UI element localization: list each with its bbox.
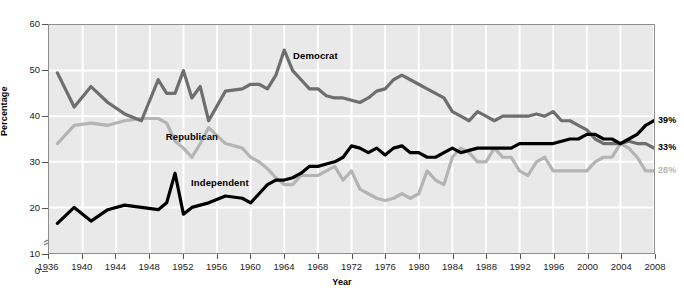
y-tick-label: 40 xyxy=(6,110,40,121)
x-tick-mark xyxy=(250,254,251,259)
x-tick-mark xyxy=(588,254,589,259)
x-tick-mark xyxy=(48,254,49,259)
x-tick-mark xyxy=(520,254,521,259)
x-tick-mark xyxy=(183,254,184,259)
y-tick-label: 30 xyxy=(6,156,40,167)
x-tick-mark xyxy=(419,254,420,259)
series-label-republican: Republican xyxy=(166,131,218,142)
x-tick-mark xyxy=(655,254,656,259)
x-tick-mark xyxy=(284,254,285,259)
series-label-democrat: Democrat xyxy=(293,50,338,61)
end-value-democrat: 33% xyxy=(658,142,676,152)
x-tick-mark xyxy=(318,254,319,259)
y-tick-label: 60 xyxy=(6,18,40,29)
series-line-democrat xyxy=(57,50,654,148)
chart-figure: Percentage 0102030405060 193619401944194… xyxy=(0,0,684,298)
plot-canvas xyxy=(49,25,654,253)
series-lines xyxy=(57,50,654,223)
x-tick-mark xyxy=(486,254,487,259)
x-tick-mark xyxy=(115,254,116,259)
x-axis-title: Year xyxy=(0,277,684,287)
x-tick-mark xyxy=(621,254,622,259)
x-tick-mark xyxy=(149,254,150,259)
gridlines xyxy=(49,25,654,253)
x-tick-mark xyxy=(82,254,83,259)
y-tick-label: 10 xyxy=(6,248,40,259)
y-axis-title: Percentage xyxy=(0,36,9,136)
end-value-independent: 39% xyxy=(658,115,676,125)
end-value-republican: 28% xyxy=(658,165,676,175)
y-tick-label: 50 xyxy=(6,64,40,75)
series-label-independent: Independent xyxy=(191,177,249,188)
x-tick-mark xyxy=(217,254,218,259)
x-tick-label: 2008 xyxy=(635,261,675,272)
y-tick-label: 20 xyxy=(6,202,40,213)
x-tick-mark xyxy=(453,254,454,259)
plot-area xyxy=(48,24,655,254)
series-line-republican xyxy=(57,118,654,200)
x-tick-mark xyxy=(385,254,386,259)
x-tick-mark xyxy=(554,254,555,259)
x-tick-mark xyxy=(352,254,353,259)
